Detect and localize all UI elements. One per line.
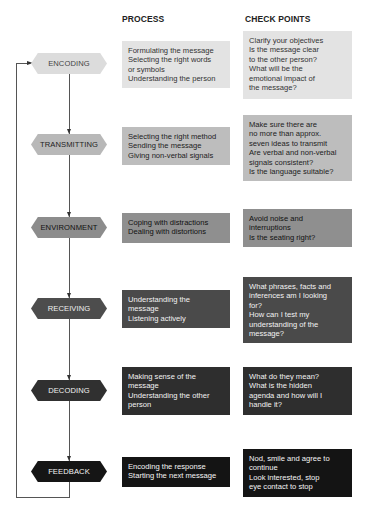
process-box-transmitting: Selecting the right method Sending the m… <box>122 127 230 165</box>
process-box-decoding: Making sense of the message Understandin… <box>122 367 230 415</box>
check-box-feedback: Nod, smile and agree to continue Look in… <box>243 449 352 497</box>
stage-feedback: FEEDBACK <box>31 461 107 482</box>
process-box-environment: Coping with distractions Dealing with di… <box>122 213 230 243</box>
stage-label: RECEIVING <box>48 304 91 313</box>
stage-label: ENCODING <box>48 59 90 68</box>
process-box-receiving: Understanding the message Listening acti… <box>122 290 230 328</box>
arrow-down-icon <box>67 456 71 461</box>
check-points-column-header: CHECK POINTS <box>245 14 310 24</box>
process-column-header: PROCESS <box>122 14 164 24</box>
arrow-down-icon <box>67 129 71 134</box>
check-box-encoding: Clarify your objectives Is the message c… <box>243 31 352 99</box>
arrow-down-icon <box>67 212 71 217</box>
process-box-feedback: Encoding the response Starting the next … <box>122 457 230 487</box>
stage-encoding: ENCODING <box>31 53 107 74</box>
feedback-loop-bottom-line <box>16 497 70 498</box>
feedback-loop-left-line <box>16 63 17 498</box>
stage-environment: ENVIRONMENT <box>31 217 107 238</box>
process-box-encoding: Formulating the message Selecting the ri… <box>122 41 230 88</box>
arrow-down-icon <box>67 375 71 380</box>
stage-label: ENVIRONMENT <box>40 223 97 232</box>
stage-transmitting: TRANSMITTING <box>31 134 107 155</box>
check-box-decoding: What do they mean? What is the hidden ag… <box>243 367 352 415</box>
stage-decoding: DECODING <box>31 380 107 401</box>
check-box-transmitting: Make sure there are no more than approx.… <box>243 115 352 181</box>
check-box-environment: Avoid noise and interruptions Is the sea… <box>243 209 352 247</box>
stage-label: TRANSMITTING <box>40 140 98 149</box>
stage-label: DECODING <box>48 386 90 395</box>
stage-label: FEEDBACK <box>48 467 90 476</box>
stage-receiving: RECEIVING <box>31 298 107 319</box>
arrow-down-icon <box>67 293 71 298</box>
check-box-receiving: What phrases, facts and inferences am I … <box>243 277 352 343</box>
